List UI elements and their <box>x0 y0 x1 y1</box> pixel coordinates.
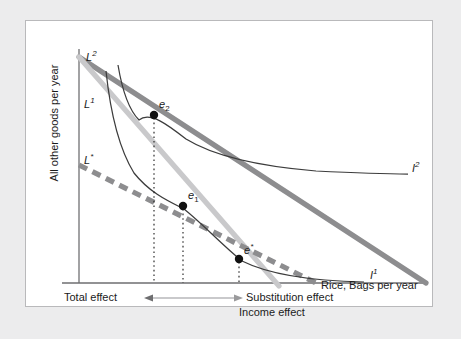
label-point-estar: e* <box>244 242 253 256</box>
point-estar-marker <box>235 255 243 263</box>
figure-panel: All other goods per year L2 <box>25 20 433 307</box>
legend-substitution-effect: Substitution effect <box>246 291 333 303</box>
label-point-e2: e2 <box>159 98 170 113</box>
x-axis-label: Rice, Bags per year <box>321 279 418 291</box>
budget-line-lstar <box>79 165 318 284</box>
point-e2-marker <box>150 111 158 119</box>
label-budget-lstar: L* <box>84 152 93 166</box>
total-effect-arrow-head-left <box>144 295 153 302</box>
legend-income-effect: Income effect <box>239 306 305 318</box>
point-e1-marker <box>179 202 187 210</box>
label-budget-l1: L1 <box>84 96 95 110</box>
total-effect-arrow-head-right <box>234 295 243 302</box>
label-budget-l2: L2 <box>86 49 97 63</box>
legend-total-effect: Total effect <box>64 291 117 303</box>
indifference-curve-i2 <box>118 65 408 174</box>
label-indifference-i2: I2 <box>412 160 420 174</box>
label-point-e1: e1 <box>188 189 199 204</box>
